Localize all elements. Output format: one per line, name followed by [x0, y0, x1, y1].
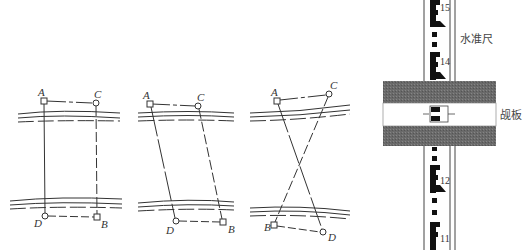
point-B-marker	[271, 222, 277, 228]
rod-number-12: 12	[440, 176, 450, 186]
label-A-fig3: A	[271, 87, 278, 98]
label-B-fig2: B	[228, 224, 235, 235]
upper-river-1	[18, 111, 120, 122]
figure-1	[10, 98, 122, 220]
point-D-marker	[320, 229, 326, 235]
rod-number-14: 14	[440, 57, 450, 67]
figure-2	[138, 101, 234, 225]
label-C-fig2: C	[197, 92, 204, 103]
point-C-marker	[195, 103, 201, 109]
rod-label: 水准尺	[460, 34, 493, 45]
point-D-marker	[42, 213, 48, 219]
label-C-fig3: C	[330, 80, 337, 91]
point-A-marker	[41, 98, 47, 104]
label-D-fig1: D	[34, 218, 42, 229]
point-C-marker	[93, 100, 99, 106]
lower-river-3	[250, 207, 350, 219]
label-B-fig3: B	[264, 222, 271, 233]
label-D-fig2: D	[166, 225, 174, 236]
point-C-marker	[326, 91, 332, 97]
point-B-marker	[94, 214, 100, 220]
leveling-diagram	[0, 0, 531, 250]
point-A-marker	[274, 98, 280, 104]
lower-river-1	[10, 198, 122, 209]
label-D-fig3: D	[328, 232, 336, 243]
point-A-marker	[147, 101, 153, 107]
upper-river-3	[250, 105, 350, 121]
label-B-fig1: B	[101, 219, 108, 230]
rod-number-15: 15	[440, 3, 450, 13]
figure-3	[250, 91, 350, 235]
vane-label: 觇板	[500, 110, 522, 121]
label-C-fig1: C	[94, 89, 101, 100]
rod-number-11: 11	[440, 234, 450, 244]
point-B-marker	[220, 219, 226, 225]
label-A-fig1: A	[38, 87, 45, 98]
vane-board	[383, 81, 496, 146]
label-A-fig2: A	[143, 90, 150, 101]
